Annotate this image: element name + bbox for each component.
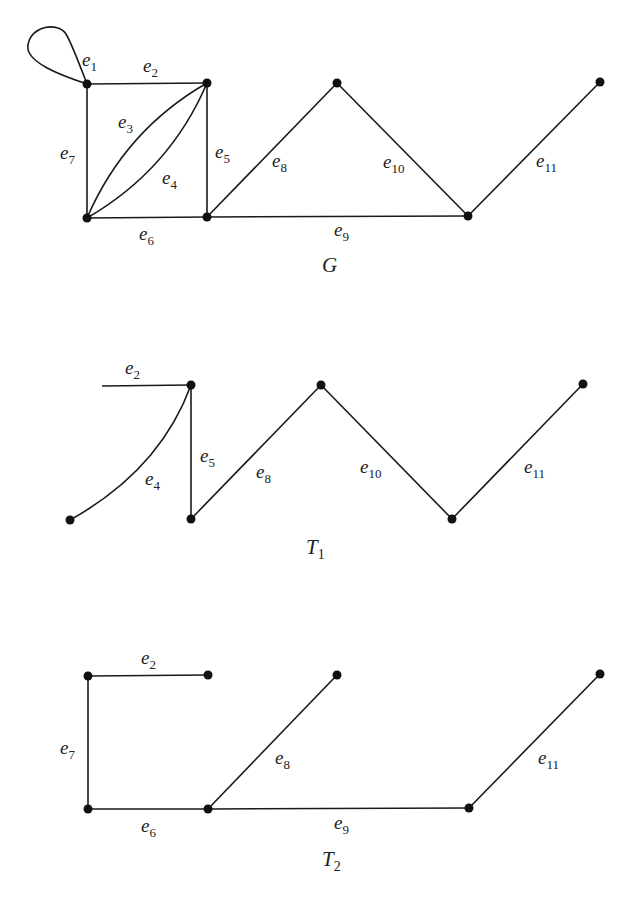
edge-e11	[468, 82, 600, 216]
edge-e9	[207, 216, 468, 217]
label-e9: e9	[334, 812, 349, 837]
label-e11: e11	[536, 150, 557, 175]
edge-e2	[102, 385, 191, 386]
vertex	[465, 804, 474, 813]
label-e11: e11	[538, 747, 559, 772]
graph-title-t2: T2	[322, 847, 341, 874]
label-e5: e5	[215, 141, 230, 166]
vertex	[333, 671, 342, 680]
label-e11: e11	[524, 456, 545, 481]
edge-e6	[87, 217, 207, 218]
vertex	[83, 214, 92, 223]
label-e9: e9	[334, 219, 349, 244]
graph-figure: e1 e2 e3 e4 e5 e6 e7 e8 e9 e10 e11 G e2 …	[0, 0, 644, 900]
label-e10: e10	[360, 456, 381, 481]
label-e2: e2	[141, 647, 156, 672]
edge-e11	[452, 384, 583, 519]
label-e10: e10	[383, 151, 404, 176]
label-e4: e4	[162, 167, 177, 192]
vertex	[204, 805, 213, 814]
label-e2: e2	[143, 55, 158, 80]
edge-e1-loop	[28, 27, 87, 84]
edge-e2	[87, 83, 207, 84]
vertex	[448, 515, 457, 524]
vertex	[204, 671, 213, 680]
graph-g: e1 e2 e3 e4 e5 e6 e7 e8 e9 e10 e11 G	[28, 27, 605, 277]
vertex	[579, 380, 588, 389]
vertex	[317, 381, 326, 390]
label-e2: e2	[125, 357, 140, 382]
label-e8: e8	[272, 150, 287, 175]
edge-e3	[87, 83, 207, 218]
label-e8: e8	[256, 461, 271, 486]
vertex	[596, 78, 605, 87]
vertex	[66, 516, 75, 525]
label-e5: e5	[200, 445, 215, 470]
vertex	[203, 213, 212, 222]
vertex	[187, 381, 196, 390]
edge-e11	[469, 674, 600, 808]
spanning-tree-t1: e2 e4 e5 e8 e10 e11 T1	[66, 357, 588, 562]
graph-title-t1: T1	[306, 535, 325, 562]
graph-title-g: G	[322, 253, 337, 277]
vertex	[84, 805, 93, 814]
vertex	[187, 515, 196, 524]
edge-e2	[88, 675, 208, 676]
edge-e4	[70, 385, 191, 520]
edge-e8	[208, 675, 337, 809]
spanning-tree-t2: e2 e7 e6 e8 e9 e11 T2	[60, 647, 605, 874]
label-e6: e6	[139, 223, 154, 248]
label-e3: e3	[118, 111, 133, 136]
vertex	[333, 79, 342, 88]
edge-e10	[321, 385, 452, 519]
edge-e4	[87, 83, 207, 218]
label-e4: e4	[145, 468, 160, 493]
edge-e10	[337, 83, 468, 216]
label-e8: e8	[275, 747, 290, 772]
vertex	[464, 212, 473, 221]
vertex	[203, 79, 212, 88]
label-e1: e1	[82, 49, 97, 74]
label-e7: e7	[60, 142, 75, 167]
vertex	[83, 80, 92, 89]
label-e6: e6	[141, 815, 156, 840]
vertex	[596, 670, 605, 679]
label-e7: e7	[60, 737, 75, 762]
edge-e9	[208, 808, 469, 809]
vertex	[84, 672, 93, 681]
edge-e8	[191, 385, 321, 519]
